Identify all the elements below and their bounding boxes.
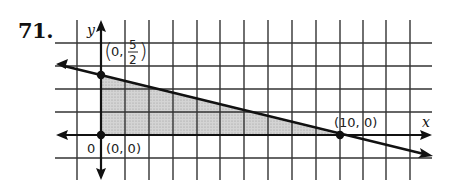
coordinate-graph: x y 0 (0, 0) (10, 0) ( 0, 5 2 ) [0,0,455,190]
point-x-intercept [336,131,344,139]
point-y-intercept [97,71,105,79]
point-origin [97,131,105,139]
svg-text:0,: 0, [111,44,123,59]
origin-label: 0 [87,141,95,156]
point-x-intercept-label: (10, 0) [334,115,377,130]
x-axis-label: x [422,114,430,130]
y-axis-label: y [86,22,96,38]
point-origin-label: (0, 0) [106,141,141,156]
svg-text:5: 5 [129,38,137,52]
svg-text:): ) [139,38,148,63]
svg-text:2: 2 [129,53,137,67]
